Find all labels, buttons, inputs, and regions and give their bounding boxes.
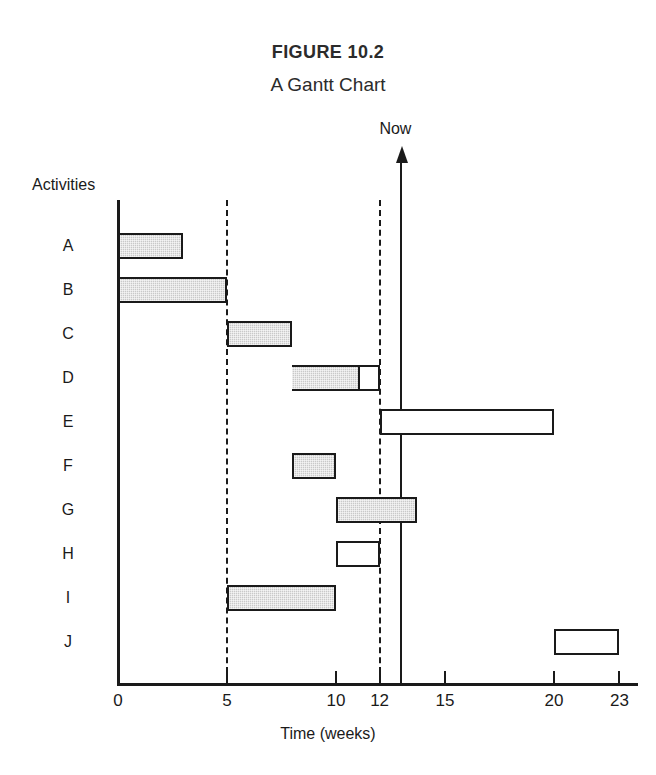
gantt-bar-j[interactable]	[554, 629, 619, 655]
gantt-bar-h[interactable]	[336, 541, 380, 567]
figure-title: A Gantt Chart	[0, 74, 656, 96]
activity-label-g: G	[48, 501, 88, 519]
gantt-bar-g[interactable]	[336, 497, 417, 523]
gantt-bar-c[interactable]	[227, 321, 292, 347]
x-axis-tick-label: 23	[610, 691, 629, 711]
activity-label-j: J	[48, 633, 88, 651]
x-axis-tick-label: 10	[327, 691, 346, 711]
dashed-reference-line	[379, 200, 381, 683]
x-axis-tick	[226, 671, 228, 683]
gantt-bar-progress-d	[292, 367, 359, 389]
x-axis-line	[117, 683, 638, 686]
activity-label-h: H	[48, 545, 88, 563]
x-axis-tick	[335, 671, 337, 683]
activity-label-d: D	[48, 369, 88, 387]
activity-label-b: B	[48, 281, 88, 299]
gantt-bar-b[interactable]	[118, 277, 227, 303]
x-axis-tick	[618, 671, 620, 683]
gantt-bar-e[interactable]	[380, 409, 554, 435]
gantt-bar-a[interactable]	[118, 233, 183, 259]
x-axis-tick-label: 5	[222, 691, 231, 711]
figure-number: FIGURE 10.2	[0, 42, 656, 63]
activity-label-a: A	[48, 237, 88, 255]
activity-label-c: C	[48, 325, 88, 343]
x-axis-title: Time (weeks)	[0, 725, 656, 743]
y-axis-line	[117, 200, 120, 683]
x-axis-tick	[379, 671, 381, 683]
gantt-bar-d[interactable]	[292, 365, 379, 391]
x-axis-tick	[444, 671, 446, 683]
x-axis-tick-label: 12	[370, 691, 389, 711]
x-axis-tick-label: 0	[113, 691, 122, 711]
activity-label-i: I	[48, 589, 88, 607]
x-axis-tick	[117, 671, 119, 683]
x-axis-tick-label: 20	[545, 691, 564, 711]
now-arrow-icon	[396, 146, 408, 163]
activity-label-f: F	[48, 457, 88, 475]
activity-label-e: E	[48, 413, 88, 431]
x-axis-tick	[553, 671, 555, 683]
gantt-figure: FIGURE 10.2 A Gantt Chart Activities Now…	[0, 0, 656, 775]
activities-axis-header: Activities	[32, 176, 95, 194]
x-axis-tick-label: 15	[436, 691, 455, 711]
now-marker-label: Now	[379, 120, 411, 138]
gantt-bar-i[interactable]	[227, 585, 336, 611]
gantt-bar-f[interactable]	[292, 453, 336, 479]
